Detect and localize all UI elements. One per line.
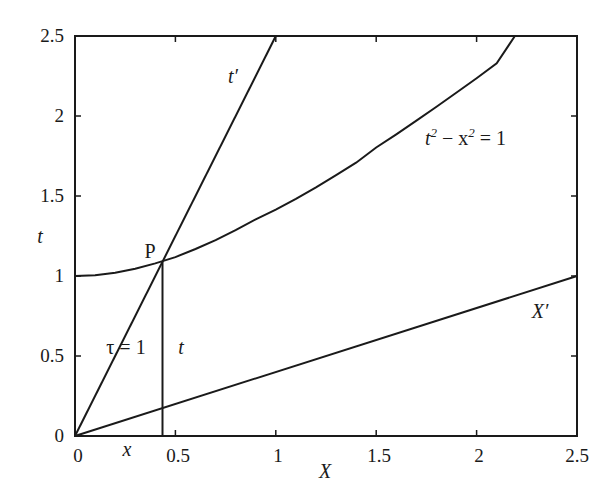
x-tick-2-5: 2.5 — [565, 445, 589, 466]
y-tick-2-5: 2.5 — [40, 25, 64, 46]
spacetime-diagram: 0 0.5 1 1.5 2 2.5 0 0.5 1 1.5 2 2.5 X t … — [0, 0, 615, 491]
y-tick-2: 2 — [55, 105, 65, 126]
tau-label: τ = 1 — [106, 336, 145, 358]
x-tick-2: 2 — [474, 445, 484, 466]
y-tick-1: 1 — [55, 265, 65, 286]
curves — [75, 36, 577, 436]
x-prime-label: X′ — [531, 300, 549, 322]
y-axis-label: t — [37, 225, 43, 247]
x-tick-0: 0 — [73, 445, 83, 466]
t-prime-line — [75, 36, 276, 436]
x-tick-1-5: 1.5 — [367, 445, 391, 466]
y-tick-0: 0 — [55, 425, 65, 446]
y-tick-1-5: 1.5 — [40, 185, 64, 206]
x-prime-line — [75, 276, 577, 436]
hyperbola-equation-label: t2 − x2 = 1 — [425, 125, 506, 149]
t-segment-label: t — [178, 336, 184, 358]
x-axis-label: X — [318, 460, 332, 482]
x-ticks — [175, 36, 476, 436]
hyperbola-curve — [75, 36, 515, 276]
x-segment-label: x — [122, 438, 132, 460]
plot-frame — [75, 36, 577, 436]
point-p-label: P — [144, 240, 155, 262]
x-tick-0-5: 0.5 — [166, 445, 190, 466]
t-prime-label: t′ — [228, 65, 239, 87]
y-ticks — [75, 116, 577, 356]
x-tick-1: 1 — [273, 445, 283, 466]
y-tick-0-5: 0.5 — [40, 345, 64, 366]
